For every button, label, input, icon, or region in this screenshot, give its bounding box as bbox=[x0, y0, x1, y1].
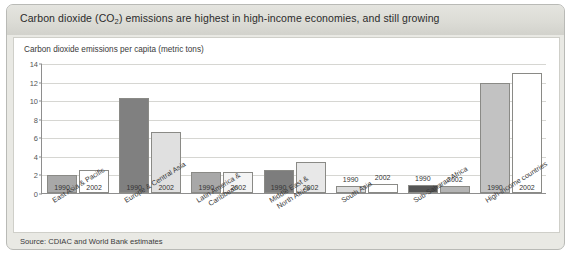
y-axis-tick-label: 2 bbox=[34, 171, 38, 180]
bar-group: 19902002 bbox=[336, 64, 398, 193]
page-title: Carbon dioxide (CO2) emissions are highe… bbox=[20, 12, 440, 24]
bar-year-label: 1990 bbox=[343, 176, 359, 183]
source-note: Source: CDIAC and World Bank estimates bbox=[20, 237, 163, 246]
y-axis-tick-label: 14 bbox=[30, 60, 38, 69]
bar-year-label: 1990 bbox=[415, 175, 431, 182]
bar-year-label: 2002 bbox=[86, 184, 102, 191]
y-axis-tick-label: 10 bbox=[30, 97, 38, 106]
bar-year-label: 2002 bbox=[375, 174, 391, 181]
bar-group: 19902002 bbox=[264, 64, 326, 193]
y-axis-tickmark bbox=[39, 64, 42, 65]
bar-1990: 1990 bbox=[119, 98, 149, 193]
y-axis-tick-label: 6 bbox=[34, 134, 38, 143]
title-bar: Carbon dioxide (CO2) emissions are highe… bbox=[7, 5, 564, 35]
y-axis-tick-label: 8 bbox=[34, 115, 38, 124]
y-axis-tickmark bbox=[39, 138, 42, 139]
y-axis-tickmark bbox=[39, 156, 42, 157]
title-suffix: ) emissions are highest in high-income e… bbox=[119, 12, 440, 24]
plot-area: 0246810121419902002199020021990200219902… bbox=[41, 64, 546, 194]
bar-year-label: 2002 bbox=[158, 184, 174, 191]
chart-panel: Carbon dioxide (CO2) emissions are highe… bbox=[6, 4, 565, 250]
y-axis-tick-label: 12 bbox=[30, 78, 38, 87]
y-axis-tickmark bbox=[39, 175, 42, 176]
chart-subtitle: Carbon dioxide emissions per capita (met… bbox=[24, 45, 204, 54]
title-prefix: Carbon dioxide (CO bbox=[20, 12, 115, 24]
y-axis-tick-label: 4 bbox=[34, 152, 38, 161]
y-axis-tick-label: 0 bbox=[34, 190, 38, 199]
screenshot-root: Carbon dioxide (CO2) emissions are highe… bbox=[0, 0, 573, 255]
y-axis-tickmark bbox=[39, 101, 42, 102]
y-axis-tickmark bbox=[39, 194, 42, 195]
title-subscript: 2 bbox=[115, 17, 119, 26]
bar-1990: 1990 bbox=[480, 83, 510, 194]
y-axis-tickmark bbox=[39, 82, 42, 83]
bar-group: 19902002 bbox=[191, 64, 253, 193]
y-axis-tickmark bbox=[39, 119, 42, 120]
chart-card: Carbon dioxide emissions per capita (met… bbox=[13, 37, 560, 233]
